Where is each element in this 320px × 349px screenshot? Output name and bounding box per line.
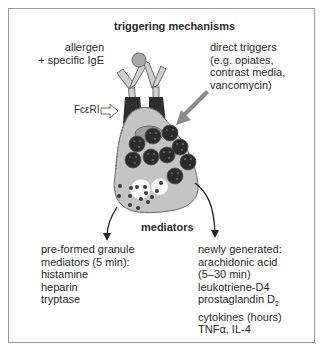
newly-generated-mediators-list: newly generated: arachidonic acid (5–30 … [198, 243, 282, 336]
arrow-preformed [107, 207, 117, 236]
direct-triggers-label: direct triggers (e.g. opiates, contrast … [210, 41, 285, 91]
preformed-mediators-list: pre-formed granule mediators (5 min): hi… [41, 243, 135, 306]
allergen-label: allergen + specific IgE [4, 41, 104, 66]
direct-trigger-arrow [176, 90, 209, 125]
mediators-title: mediators [141, 221, 194, 234]
fcer1-pointer-arrow [101, 104, 118, 118]
allergen-icon [132, 53, 146, 67]
title-triggering-mechanisms: triggering mechanisms [114, 20, 235, 33]
prostaglandin-line: prostaglandin D2 [198, 293, 282, 306]
receptor-label: FcεRI [74, 104, 100, 117]
